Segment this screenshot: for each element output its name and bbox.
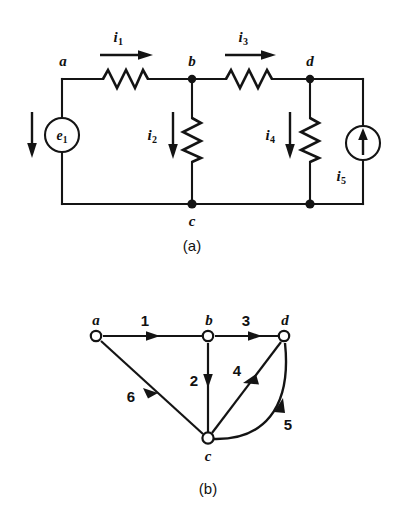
- graph-node-a-circle: [91, 331, 101, 341]
- current-label-i2: i2: [147, 128, 156, 143]
- current-label-i5-symbol: i: [336, 168, 340, 184]
- current-label-i5: i5: [336, 169, 345, 184]
- current-label-i4-symbol: i: [265, 127, 269, 143]
- figure-root: a b d c i1 i3 i2 i4 i5 e1 (a) a b d c 1 …: [0, 0, 404, 515]
- source-label-e1-subscript: 1: [63, 135, 68, 145]
- current-arrow-i4-down: [285, 112, 295, 159]
- current-label-i4-subscript: 4: [270, 134, 275, 145]
- resistor-r1-zigzag: [103, 70, 148, 88]
- graph-node-label-d: d: [281, 313, 289, 328]
- circuit-node-label-c: c: [189, 214, 196, 229]
- panel-a-caption: (a): [183, 238, 201, 253]
- current-arrow-i1-right: [100, 50, 153, 60]
- node-dot-d: [306, 75, 314, 83]
- resistor-r2-zigzag: [183, 118, 201, 162]
- panel-a-circuit: [27, 50, 380, 208]
- source-label-e1: e1: [57, 129, 68, 143]
- current-label-i1-symbol: i: [113, 29, 117, 45]
- panel-b-caption: (b): [199, 481, 217, 496]
- graph-node-label-c: c: [205, 449, 212, 464]
- current-label-i3: i3: [238, 30, 247, 45]
- current-label-i4: i4: [265, 128, 274, 143]
- current-label-i1-subscript: 1: [118, 36, 123, 47]
- graph-edge-label-1: 1: [141, 313, 149, 328]
- current-arrow-i2-down: [168, 112, 178, 159]
- graph-node-c-circle: [202, 432, 213, 443]
- graph-edge-label-2: 2: [190, 373, 198, 388]
- current-label-i3-symbol: i: [238, 29, 242, 45]
- graph-edge-label-6: 6: [127, 389, 135, 404]
- graph-node-label-a: a: [92, 313, 100, 328]
- current-label-i2-subscript: 2: [152, 134, 157, 145]
- graph-node-label-b: b: [205, 313, 213, 328]
- graph-edge-label-5: 5: [284, 417, 292, 432]
- resistor-r3-zigzag: [226, 70, 272, 88]
- node-dot-c: [187, 199, 196, 208]
- circuit-node-label-a: a: [59, 54, 67, 69]
- current-label-i1: i1: [113, 30, 122, 45]
- current-label-i3-subscript: 3: [243, 36, 248, 47]
- current-arrow-e1-down: [27, 112, 37, 158]
- graph-edge-4-line: [212, 342, 281, 433]
- figure-vector-layer: [0, 0, 404, 515]
- circuit-node-label-d: d: [306, 54, 314, 69]
- graph-edge-1-arrowhead: [146, 331, 160, 341]
- current-label-i5-subscript: 5: [341, 175, 346, 186]
- graph-edge-5-curve: [214, 343, 286, 439]
- graph-node-b-circle: [203, 331, 213, 341]
- graph-edge-label-4: 4: [233, 363, 241, 378]
- current-label-i2-symbol: i: [147, 127, 151, 143]
- graph-node-d-circle: [279, 331, 289, 341]
- circuit-node-label-b: b: [188, 54, 196, 69]
- graph-edge-2-arrowhead: [203, 374, 213, 388]
- graph-edge-3-arrowhead: [248, 331, 262, 341]
- resistor-r4-zigzag: [301, 118, 319, 162]
- current-arrow-i3-right: [225, 50, 276, 60]
- node-dot-d-bottom: [305, 199, 314, 208]
- node-dot-b: [188, 75, 196, 83]
- graph-edge-6-line: [101, 341, 203, 434]
- graph-edge-label-3: 3: [242, 313, 250, 328]
